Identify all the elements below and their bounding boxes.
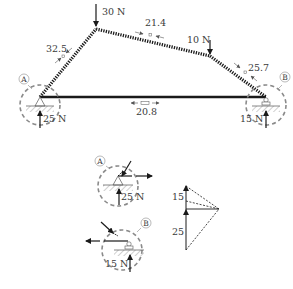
left-diagonal-force-label: 32.5 — [46, 43, 67, 54]
truss-diagram: 30 N 10 N 32.5 21.4 25.7 20.8 — [0, 0, 293, 289]
detail-b-reaction-label: 15 N — [105, 258, 128, 269]
dashed-members — [40, 29, 266, 97]
detail-a-reaction-label: 25 N — [121, 191, 144, 202]
pin-support-a-icon — [35, 97, 45, 106]
support-a: 25 N A — [19, 74, 66, 128]
detail-b: 15 N B — [86, 218, 151, 272]
force-polygon-upper-label: 15 — [172, 191, 184, 202]
detail-a-pin-icon — [113, 176, 123, 185]
detail-b-ground-hatch-icon — [114, 250, 144, 256]
force-polygon-lower-label: 25 — [172, 226, 184, 237]
top-chord-force-arrows-icon — [135, 32, 164, 38]
force-polygon: 15 25 — [172, 186, 219, 250]
bottom-chord-force-label: 20.8 — [136, 106, 157, 117]
reaction-a-label: 25 N — [43, 113, 66, 124]
left-diagonal-member — [40, 29, 96, 97]
top-load-label: 30 N — [102, 6, 125, 17]
reaction-b-label: 15 N — [240, 113, 263, 124]
label-a: A — [20, 75, 27, 84]
top-chord-force-label: 21.4 — [145, 17, 166, 28]
main-truss: 30 N 10 N 32.5 21.4 25.7 20.8 — [40, 4, 269, 117]
detail-a: 25 N A — [95, 156, 152, 206]
detail-b-member-force-arrow-icon — [101, 222, 113, 233]
detail-b-roller-icon — [127, 242, 131, 246]
detail-b-label: B — [143, 219, 149, 228]
label-b: B — [282, 73, 288, 82]
right-diagonal-force-label: 25.7 — [248, 62, 269, 73]
right-load-label: 10 N — [187, 34, 210, 45]
bottom-chord-force-arrows-icon — [131, 102, 159, 105]
detail-a-member-force-arrow-icon — [122, 161, 131, 176]
support-b: 15 N B — [240, 72, 290, 128]
detail-a-label: A — [96, 157, 103, 166]
roller-b-icon — [264, 98, 268, 102]
